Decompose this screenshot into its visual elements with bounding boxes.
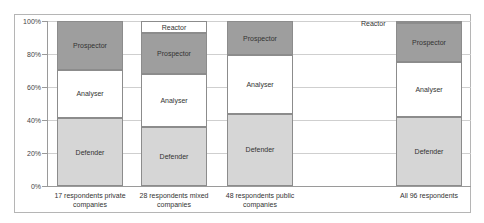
y-tick-label: 40% [27, 117, 41, 124]
reactor-outside-label: Reactor [361, 20, 386, 27]
y-tick [42, 153, 47, 154]
segment-label: Defender [246, 146, 275, 153]
segment-label: Prospector [73, 42, 107, 49]
bar-segment-reactor [396, 21, 462, 23]
x-category-label-line: companies [129, 200, 219, 209]
bar-segment-defender: Defender [141, 127, 207, 186]
bar-segment-defender: Defender [396, 117, 462, 186]
x-category-label: All 96 respondents [384, 191, 474, 200]
segment-label: Defender [160, 153, 189, 160]
x-category-label: 48 respondents publiccompanies [215, 191, 305, 209]
y-tick [42, 186, 47, 187]
x-category-label-line: companies [215, 200, 305, 209]
x-category-label-line: 48 respondents public [215, 191, 305, 200]
y-tick-label: 0% [31, 183, 41, 190]
y-axis [47, 21, 48, 186]
stacked-bar: DefenderAnalyserProspector [57, 21, 123, 186]
bar-segment-reactor: Reactor [141, 21, 207, 33]
segment-label: Defender [76, 149, 105, 156]
y-tick-label: 100% [23, 18, 41, 25]
bar-segment-defender: Defender [57, 118, 123, 186]
y-tick-label: 60% [27, 84, 41, 91]
y-tick [42, 54, 47, 55]
y-tick [42, 21, 47, 22]
segment-label: Analyser [160, 97, 187, 104]
x-category-label: 17 respondents privatecompanies [45, 191, 135, 209]
bar-segment-prospector: Prospector [141, 33, 207, 74]
x-category-label-line: 17 respondents private [45, 191, 135, 200]
bar-segment-analyser: Analyser [141, 74, 207, 127]
y-tick [42, 120, 47, 121]
bar-segment-prospector: Prospector [396, 23, 462, 63]
segment-label: Prospector [157, 50, 191, 57]
segment-label: Analyser [246, 81, 273, 88]
segment-label: Reactor [162, 24, 187, 31]
y-tick-label: 80% [27, 51, 41, 58]
bar-segment-prospector: Prospector [57, 21, 123, 70]
segment-label: Analyser [415, 86, 442, 93]
stacked-bar: DefenderAnalyserProspectorReactor [141, 21, 207, 186]
x-category-label-line: All 96 respondents [384, 191, 474, 200]
segment-label: Analyser [76, 90, 103, 97]
y-tick-label: 20% [27, 150, 41, 157]
x-category-label-line: 28 respondents mixed [129, 191, 219, 200]
stacked-bar: DefenderAnalyserProspector [396, 21, 462, 186]
x-axis [47, 186, 471, 187]
bar-segment-analyser: Analyser [57, 70, 123, 119]
stacked-bar: DefenderAnalyserProspector [227, 21, 293, 186]
bar-segment-analyser: Analyser [396, 62, 462, 117]
x-category-label: 28 respondents mixedcompanies [129, 191, 219, 209]
segment-label: Defender [415, 148, 444, 155]
bar-segment-prospector: Prospector [227, 21, 293, 55]
y-tick [42, 87, 47, 88]
bar-segment-defender: Defender [227, 114, 293, 186]
segment-label: Prospector [243, 35, 277, 42]
segment-label: Prospector [412, 39, 446, 46]
bar-segment-analyser: Analyser [227, 55, 293, 113]
x-category-label-line: companies [45, 200, 135, 209]
